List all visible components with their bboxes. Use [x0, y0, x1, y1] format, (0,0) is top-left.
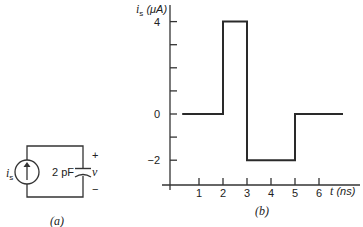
voltage-label: v	[92, 165, 98, 179]
capacitor-icon	[75, 169, 91, 178]
y-tick-label: 0	[154, 108, 160, 120]
x-tick-label: 2	[220, 187, 226, 199]
capacitance-label: 2 pF	[52, 166, 74, 178]
circuit-diagram: is 2 pF v + − (a)	[6, 146, 98, 227]
caption-a: (a)	[50, 214, 64, 227]
y-tick-label: 4	[154, 16, 160, 28]
x-tick-label: 5	[292, 187, 298, 199]
current-waveform	[182, 22, 343, 161]
x-axis-label: t (ns)	[330, 184, 356, 198]
x-tick-label: 6	[316, 187, 322, 199]
waveform-plot: 40−2 123456 is (μA) t (ns) (b)	[136, 2, 360, 218]
x-tick-label: 1	[196, 187, 202, 199]
x-tick-label: 4	[268, 187, 274, 199]
caption-b: (b)	[255, 204, 269, 218]
y-tick-label: −2	[147, 154, 160, 166]
source-label: is	[6, 166, 13, 182]
x-ticks: 123456	[196, 178, 322, 199]
figure: is 2 pF v + − (a) 40−2 123456 is (μA) t …	[0, 0, 363, 227]
plus-sign: +	[92, 149, 98, 161]
x-tick-label: 3	[244, 187, 250, 199]
y-ticks: 40−2	[147, 16, 177, 167]
minus-sign: −	[92, 183, 98, 195]
y-axis-label: is (μA)	[136, 2, 167, 18]
